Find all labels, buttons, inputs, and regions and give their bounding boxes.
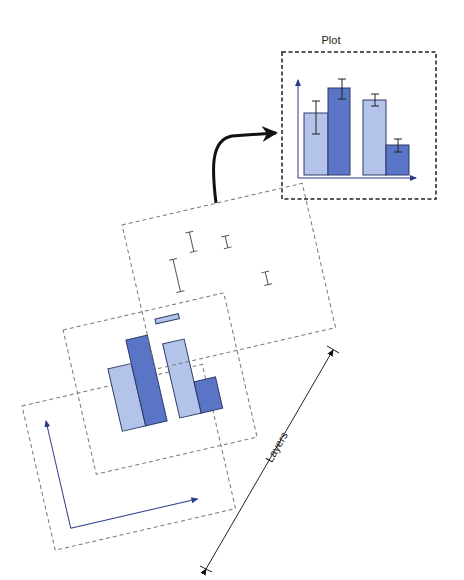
layered-plot-diagram: Plot (0, 0, 464, 580)
plot-panel: Plot (282, 34, 436, 199)
layer-error-bars (122, 183, 336, 369)
layers-tick-end (327, 346, 339, 353)
layers-dimension: Layers (200, 346, 339, 572)
layer-bar-group2-light (163, 339, 202, 418)
plot-title: Plot (322, 34, 341, 46)
layers-tick-start (200, 566, 212, 572)
layer-x-axis (71, 499, 198, 528)
composite-arrow (213, 133, 276, 203)
plot-bar-group1-dark (328, 88, 350, 175)
layer-error-bars-border (122, 183, 336, 369)
layer-error-bar-marks (164, 217, 272, 306)
layer-bar-fragment (155, 314, 180, 324)
layer-y-axis (46, 421, 71, 528)
layer-bars (63, 293, 257, 474)
layers-label: Layers (263, 429, 290, 464)
plot-bar-group2-light (363, 100, 386, 175)
